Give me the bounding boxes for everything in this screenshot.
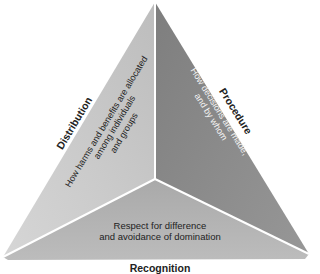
recognition-title: Recognition <box>110 262 210 274</box>
recognition-desc-line-2: and avoidance of domination <box>80 232 240 243</box>
recognition-description: Respect for difference and avoidance of … <box>80 221 240 243</box>
